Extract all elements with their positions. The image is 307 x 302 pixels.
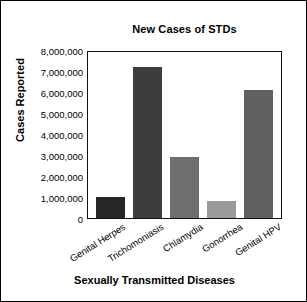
y-axis-tick-label: 8,000,000 — [1, 46, 83, 57]
bar — [244, 90, 273, 218]
chart-figure: New Cases of STDs Cases Reported 01,000,… — [0, 0, 307, 302]
x-axis-tick-labels: Genital HerpesTrichomoniasisChlamydiaGon… — [87, 221, 282, 273]
y-axis-tick-label: 1,000,000 — [1, 193, 83, 204]
bar — [133, 67, 162, 218]
x-axis-title: Sexually Transmitted Diseases — [19, 274, 290, 286]
y-axis-tick-label: 2,000,000 — [1, 172, 83, 183]
y-axis-tick-label: 5,000,000 — [1, 109, 83, 120]
y-axis-tick-label: 7,000,000 — [1, 67, 83, 78]
y-axis-tick-label: 3,000,000 — [1, 151, 83, 162]
plot-area — [87, 51, 282, 219]
bar — [170, 157, 199, 218]
bar — [96, 197, 125, 218]
chart-title: New Cases of STDs — [87, 23, 282, 35]
y-axis-tick-label: 4,000,000 — [1, 130, 83, 141]
bar — [207, 201, 236, 218]
y-axis-tick-label: 6,000,000 — [1, 88, 83, 99]
x-axis-tick-label: Chlamydia — [160, 221, 204, 254]
y-axis-tick-labels: 01,000,0002,000,0003,000,0004,000,0005,0… — [1, 51, 83, 219]
bar-series — [88, 52, 281, 218]
y-axis-tick-label: 0 — [1, 214, 83, 225]
